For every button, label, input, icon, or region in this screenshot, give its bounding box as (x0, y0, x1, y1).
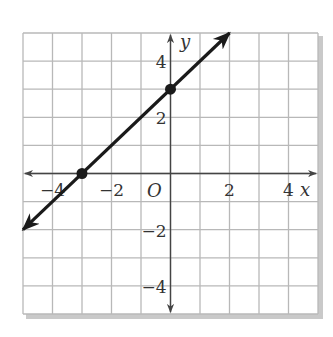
x-tick-label: 4 (283, 180, 294, 200)
y-tick-label: 2 (156, 108, 167, 128)
y-tick-label: −4 (141, 277, 166, 297)
y-tick-label: −2 (141, 221, 166, 241)
y-tick-label: 4 (156, 52, 167, 72)
y-axis-label: y (179, 31, 191, 52)
x-tick-label: −2 (99, 180, 124, 200)
coordinate-plane: −4−22442−2−4 x y O (0, 0, 333, 337)
data-point (77, 168, 88, 179)
x-tick-label: 2 (224, 180, 235, 200)
x-tick-label: −4 (40, 180, 65, 200)
data-point (165, 84, 176, 95)
x-axis-label: x (300, 179, 310, 200)
origin-label: O (147, 180, 162, 201)
